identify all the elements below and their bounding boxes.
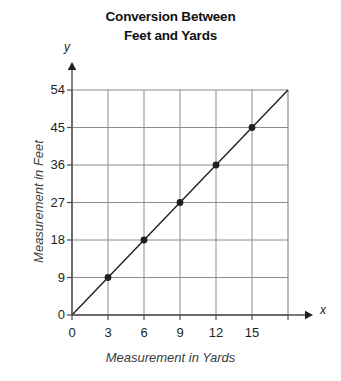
x-tick-label: 3 — [93, 325, 123, 340]
x-tick-label: 12 — [201, 325, 231, 340]
x-tick-label: 9 — [165, 325, 195, 340]
y-tick-label: 36 — [35, 157, 65, 172]
y-tick-label: 18 — [35, 232, 65, 247]
y-tick-label: 54 — [35, 82, 65, 97]
x-tick-label: 0 — [57, 325, 87, 340]
x-tick-label: 6 — [129, 325, 159, 340]
y-tick-label: 9 — [35, 270, 65, 285]
x-tick-label: 15 — [237, 325, 267, 340]
conversion-line-chart: Conversion Between Feet and Yards y x Me… — [0, 0, 341, 381]
axes — [0, 0, 341, 381]
y-tick-label: 45 — [35, 120, 65, 135]
y-tick-label: 0 — [35, 307, 65, 322]
y-tick-label: 27 — [35, 195, 65, 210]
